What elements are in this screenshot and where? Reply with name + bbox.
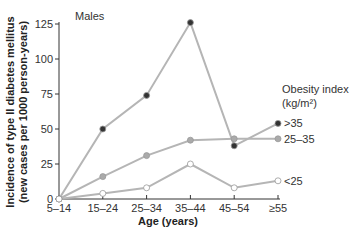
legend-label: 25–35	[284, 133, 315, 145]
data-point	[100, 126, 106, 132]
chart-title: Males	[75, 10, 105, 22]
x-tick-label: 25–34	[131, 202, 162, 214]
y-tick-label: 25	[41, 158, 53, 170]
data-point	[275, 178, 281, 184]
data-point	[187, 161, 193, 167]
data-point	[100, 190, 106, 196]
data-point	[187, 20, 193, 26]
x-tick-label: 15–24	[88, 202, 119, 214]
x-tick-label: 35–44	[175, 202, 206, 214]
data-point	[231, 136, 237, 142]
data-point	[144, 153, 150, 159]
y-tick-label: 125	[35, 18, 53, 30]
x-axis-label: Age (years)	[138, 215, 198, 227]
chart: 02550751001255–1415–2425–3435–4445–54≥55…	[0, 0, 355, 239]
data-point	[231, 143, 237, 149]
y-axis-label: Incidence of type II diabetes mellitus	[4, 16, 16, 207]
legend-label: <25	[284, 175, 303, 187]
y-tick-label: 50	[41, 123, 53, 135]
data-point	[100, 174, 106, 180]
y-axis-label-unit: (new cases per 1000 person-years)	[17, 21, 29, 204]
data-point	[231, 185, 237, 191]
data-point	[275, 120, 281, 126]
legend-label: >35	[284, 117, 303, 129]
data-point	[275, 136, 281, 142]
x-tick-label: 45–54	[219, 202, 250, 214]
y-tick-label: 75	[41, 88, 53, 100]
data-point	[144, 92, 150, 98]
x-tick-label: 5–14	[47, 202, 71, 214]
x-tick-label: ≥55	[269, 202, 287, 214]
y-tick-label: 100	[35, 53, 53, 65]
data-point	[144, 185, 150, 191]
data-point	[187, 137, 193, 143]
legend-title: Obesity index	[282, 83, 349, 95]
series-line	[59, 23, 278, 199]
data-point	[56, 196, 62, 202]
legend-title-unit: (kg/m²)	[282, 97, 317, 109]
